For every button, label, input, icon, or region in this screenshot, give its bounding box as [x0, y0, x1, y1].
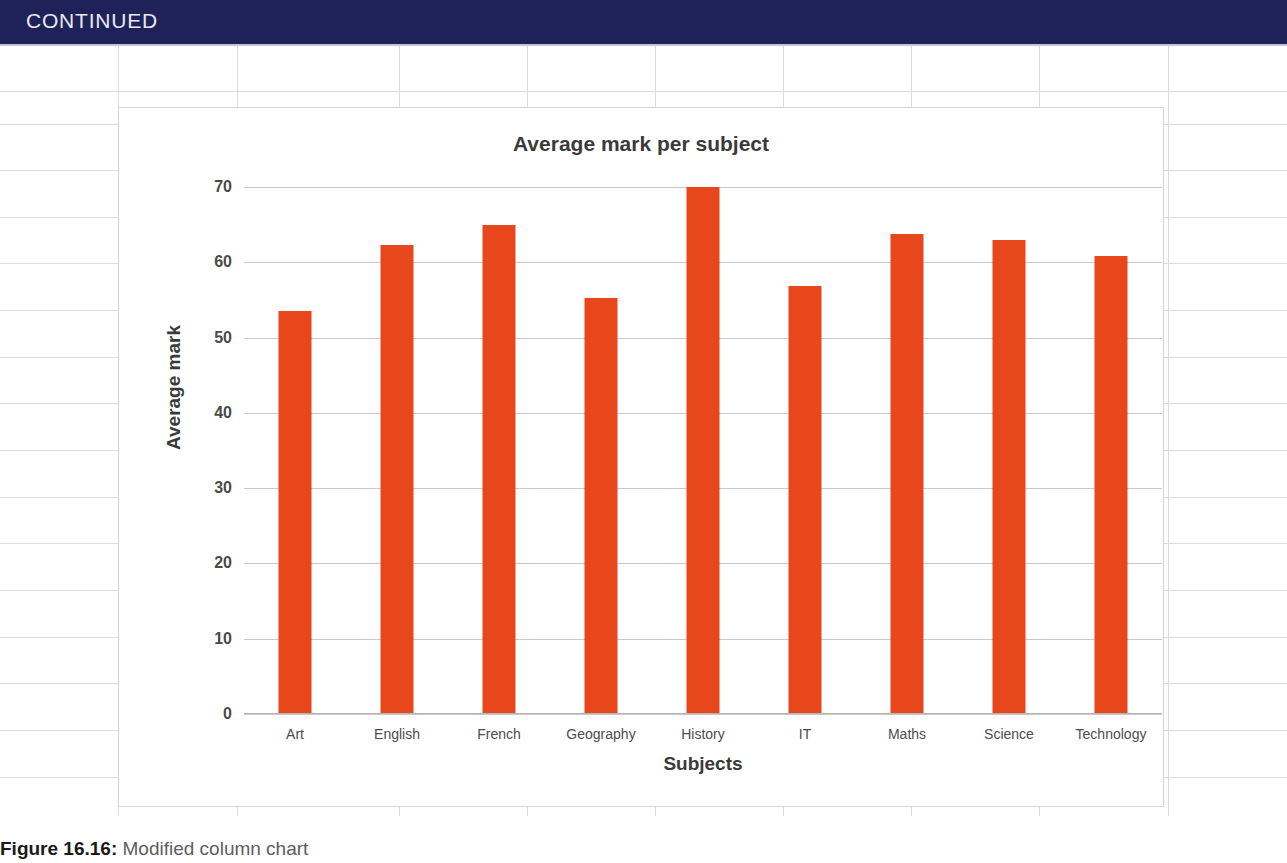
y-axis-tick-label: 50	[214, 329, 232, 347]
bar-slot: Geography	[550, 187, 652, 714]
bar[interactable]	[585, 298, 618, 714]
y-axis-tick-label: 30	[214, 479, 232, 497]
x-axis-tick-label: Art	[286, 726, 304, 742]
x-axis-tick-label: French	[477, 726, 521, 742]
x-axis-baseline	[244, 713, 1162, 714]
chart-object[interactable]: Average mark per subject Average mark 01…	[118, 107, 1164, 807]
x-axis-tick-label: History	[681, 726, 725, 742]
bar[interactable]	[1095, 256, 1128, 714]
x-axis-tick-label: Maths	[888, 726, 926, 742]
bar[interactable]	[279, 311, 312, 714]
bar[interactable]	[483, 225, 516, 714]
y-axis-tick-label: 60	[214, 253, 232, 271]
spreadsheet-column-line	[1168, 46, 1169, 816]
y-axis-tick-label: 10	[214, 630, 232, 648]
plot-area: 010203040506070 ArtEnglishFrenchGeograph…	[244, 187, 1162, 714]
x-axis-tick-label: IT	[799, 726, 811, 742]
y-axis-tick-label: 40	[214, 404, 232, 422]
bar[interactable]	[687, 187, 720, 714]
x-axis-tick-label: English	[374, 726, 420, 742]
y-axis-tick-label: 0	[223, 705, 232, 723]
chart-title: Average mark per subject	[119, 132, 1163, 156]
bar-slot: Technology	[1060, 187, 1162, 714]
figure-caption-text: Modified column chart	[117, 838, 308, 859]
bar[interactable]	[381, 245, 414, 714]
x-axis-tick-label: Technology	[1076, 726, 1147, 742]
x-axis-tick-label: Science	[984, 726, 1034, 742]
bar-slot: Art	[244, 187, 346, 714]
y-axis-title: Average mark	[163, 325, 185, 450]
figure-number: Figure 16.16:	[0, 838, 117, 859]
bar-slot: Maths	[856, 187, 958, 714]
y-axis-tick-label: 70	[214, 178, 232, 196]
x-axis-tick-label: Geography	[566, 726, 635, 742]
y-axis-tick-label: 20	[214, 554, 232, 572]
spreadsheet-row-line	[0, 91, 1287, 92]
bar-slot: English	[346, 187, 448, 714]
header-title: CONTINUED	[26, 9, 158, 33]
bar[interactable]	[891, 234, 924, 714]
bar[interactable]	[789, 286, 822, 714]
x-axis-title: Subjects	[244, 753, 1162, 775]
bar[interactable]	[993, 240, 1026, 714]
bar-series: ArtEnglishFrenchGeographyHistoryITMathsS…	[244, 187, 1162, 714]
bar-slot: History	[652, 187, 754, 714]
chart-gridline	[244, 714, 1162, 715]
figure-caption: Figure 16.16: Modified column chart	[0, 838, 308, 860]
page-header-banner: CONTINUED	[0, 0, 1287, 44]
bar-slot: Science	[958, 187, 1060, 714]
bar-slot: IT	[754, 187, 856, 714]
bar-slot: French	[448, 187, 550, 714]
